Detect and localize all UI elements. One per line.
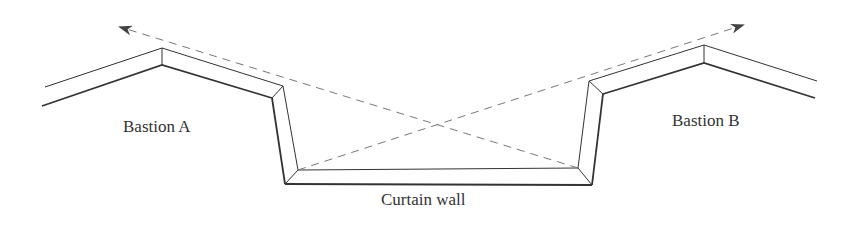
line-of-fire-left-arrow: [120, 27, 578, 168]
right-flank-wall: [578, 81, 603, 185]
curtain-wall: [285, 168, 592, 185]
bastion-a-wall: [42, 48, 283, 106]
bastion-b-label: Bastion B: [672, 111, 740, 131]
bastion-a-label: Bastion A: [123, 117, 191, 137]
curtain-wall-label: Curtain wall: [381, 190, 466, 210]
left-flank-wall: [272, 86, 298, 184]
bastion-b-wall: [589, 45, 817, 98]
line-of-fire-right-arrow: [298, 25, 743, 170]
